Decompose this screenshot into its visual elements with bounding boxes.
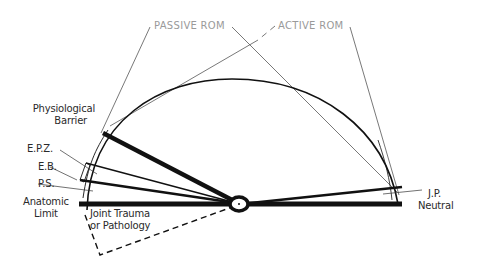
jp-pointer <box>383 190 422 194</box>
joint-trauma-line2: or Pathology <box>90 220 150 232</box>
joint-trauma-label: Joint Trauma or Pathology <box>90 208 150 232</box>
active-rom-bracket <box>110 26 399 195</box>
passive-rom-label: PASSIVE ROM <box>154 20 225 31</box>
ps-label: P.S. <box>38 178 54 190</box>
physiological-barrier-line2: Barrier <box>33 115 95 127</box>
epz-label: E.P.Z. <box>27 143 53 155</box>
anatomic-limit-label: Anatomic Limit <box>23 196 69 220</box>
jp-line1: J.P. <box>418 188 454 200</box>
physiological-barrier-line <box>103 133 236 202</box>
passive-rom-bracket <box>101 27 397 192</box>
anatomic-limit-line1: Anatomic <box>23 196 69 208</box>
inner-arc-right <box>378 140 392 200</box>
jp-neutral-label: J.P. Neutral <box>418 188 454 212</box>
range-of-motion-diagram <box>0 0 479 275</box>
active-rom-label: ACTIVE ROM <box>278 20 344 31</box>
anatomic-limit-line2: Limit <box>23 208 69 220</box>
physiological-barrier-line1: Physiological <box>33 103 95 115</box>
jp-line2: Neutral <box>418 200 454 212</box>
joint-center-dot <box>238 203 240 205</box>
physiological-barrier-label: Physiological Barrier <box>33 103 95 127</box>
joint-trauma-line1: Joint Trauma <box>90 208 150 220</box>
range-arc <box>87 79 398 210</box>
jp-neutral-line <box>241 187 402 204</box>
eb-label: E.B. <box>38 161 57 173</box>
